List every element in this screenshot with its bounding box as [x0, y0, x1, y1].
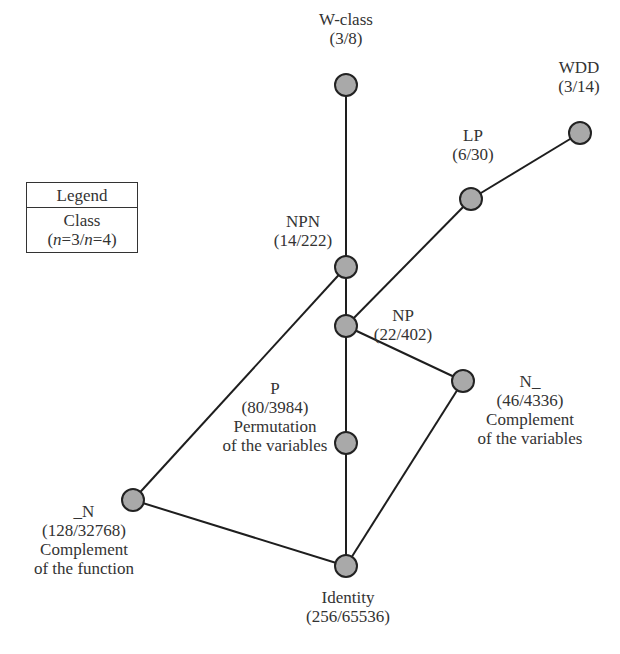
node-p [335, 432, 357, 454]
label-n-func: _N(128/32768)Complementof the function [34, 502, 134, 578]
node-identity [335, 555, 357, 577]
node-wdd [569, 122, 591, 144]
label-w-class: W-class(3/8) [319, 10, 373, 48]
label-lp: LP(6/30) [452, 126, 494, 164]
node-npn [335, 256, 357, 278]
label-n-var: N_(46/4336)Complementof the variables [478, 372, 583, 448]
legend-n-values: (n=3/n=4) [27, 230, 137, 249]
node-np [335, 315, 357, 337]
edge-n-var-identity [346, 381, 463, 566]
legend-class-label: Class [27, 211, 137, 230]
node-lp [460, 188, 482, 210]
nodes [122, 74, 591, 577]
label-identity: Identity(256/65536) [306, 588, 390, 626]
legend-box: Legend Class (n=3/n=4) [26, 182, 138, 253]
edge-n-func-identity [133, 500, 346, 566]
label-wdd: WDD(3/14) [558, 58, 600, 96]
label-npn: NPN(14/222) [274, 212, 333, 250]
legend-body: Class (n=3/n=4) [27, 208, 137, 252]
node-n-var [452, 370, 474, 392]
legend-title: Legend [27, 183, 137, 208]
node-w-class [335, 74, 357, 96]
label-p: P(80/3984)Permutationof the variables [223, 379, 328, 455]
label-np: NP(22/402) [374, 306, 433, 344]
